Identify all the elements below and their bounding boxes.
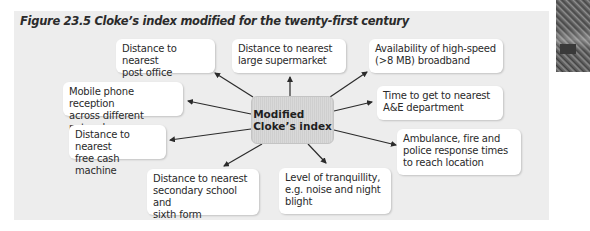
central-node-line2: Cloke’s index [253,120,332,132]
node-text-line: police response times [403,145,515,157]
arrow-emergency [334,130,396,145]
arrow-broadband [330,72,367,97]
node-emergency-response: Ambulance, fire and police response time… [397,129,521,175]
aerial-photo-thumbnail [556,0,590,72]
node-cash-machine: Distance to nearest free cash machine [69,125,166,159]
node-text-line: Distance to nearest [122,43,209,67]
node-broadband: Availability of high-speed (>8 MB) broad… [369,39,503,73]
central-node-line1: Modified [253,108,332,120]
node-text-line: blight [285,196,385,208]
node-text-line: Distance to nearest [153,173,253,185]
arrow-ae [334,102,372,111]
node-text-line: sixth form [153,209,253,221]
node-text-line: e.g. noise and night [285,184,385,196]
node-text-line: Ambulance, fire and [403,133,515,145]
node-mobile-reception: Mobile phone reception across different … [63,82,183,116]
node-text-line: secondary school and [153,185,253,209]
node-secondary-school: Distance to nearest secondary school and… [147,169,259,215]
node-text-line: large supermarket [238,55,340,67]
arrow-mobile [188,101,251,114]
node-text-line: to reach location [403,157,515,169]
node-tranquillity: Level of tranquillity, e.g. noise and ni… [279,168,391,214]
node-text-line: (>8 MB) broadband [375,55,497,67]
node-text-line: Distance to nearest [238,43,340,55]
node-text-line: Level of tranquillity, [285,172,385,184]
node-text-line: A&E department [383,102,497,114]
arrow-tranquillity [308,144,326,163]
node-text-line: Time to get to nearest [383,90,497,102]
arrow-post-office [215,73,253,97]
node-text-line: Distance to nearest [75,129,160,153]
node-supermarket: Distance to nearest large supermarket [232,39,346,73]
arrow-school [224,144,262,166]
arrow-cash [170,129,251,140]
node-ae-department: Time to get to nearest A&E department [377,86,503,120]
node-post-office: Distance to nearest post office [116,39,215,73]
node-text-line: post office [122,67,209,79]
node-text-line: Mobile phone reception [69,86,177,110]
node-text-line: Availability of high-speed [375,43,497,55]
central-node-modified-clokes-index: Modified Cloke’s index [251,96,334,144]
